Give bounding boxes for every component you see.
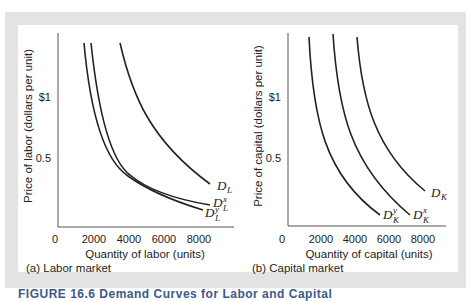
label-DKx: D x K [412,205,430,225]
x-tick-4000: 4000 [117,233,141,245]
x-tick-0: 0 [52,233,58,245]
svg-text:D: D [412,207,423,222]
y-tick-1: $1 [39,91,51,103]
svg-text:L: L [214,213,220,223]
y-axis-label: Price of capital (dollars per unit) [252,45,264,207]
x-tick-4000: 4000 [343,233,367,245]
x-tick-0: 0 [279,233,285,245]
curve-DKx [333,34,410,215]
label-DKy: D y K [382,205,400,225]
x-tick-8000: 8000 [411,233,435,245]
x-axis-label: Quantity of capital (units) [305,248,432,260]
labor-market-chart: $1 0.5 0 2000 4000 6000 8000 Quantity of… [22,33,234,274]
label-DL: D L [216,178,232,195]
x-tick-6000: 6000 [377,233,401,245]
figure-caption: FIGURE 16.6 Demand Curves for Labor and … [18,287,332,301]
capital-market-chart: $1 0.5 0 2000 4000 6000 8000 Quantity of… [252,33,448,274]
x-tick-2000: 2000 [82,233,106,245]
label-DK: D K [430,185,448,202]
label-DLy: D y L [204,204,220,223]
x-tick-6000: 6000 [152,233,176,245]
y-axis-label: Price of labor (dollars per unit) [22,49,34,203]
svg-text:K: K [422,215,430,225]
svg-text:L: L [222,203,228,213]
curve-DKy [309,37,380,215]
panel-label: (b) Capital market [252,262,344,274]
y-tick-0.5: 0.5 [36,152,51,164]
svg-text:x: x [422,205,427,215]
svg-text:K: K [392,215,400,225]
curve-DL [120,43,210,184]
x-tick-8000: 8000 [187,233,211,245]
svg-text:D: D [382,207,393,222]
curve-DLy [84,43,203,210]
y-tick-1: $1 [269,91,281,103]
svg-text:y: y [392,205,397,215]
svg-text:D: D [430,185,441,200]
y-tick-0.5: 0.5 [266,152,281,164]
curve-DLx [91,43,210,205]
x-axis-label: Quantity of labor (units) [85,248,205,260]
x-tick-2000: 2000 [309,233,333,245]
svg-text:D: D [216,178,227,193]
panel-label: (a) Labor market [26,262,112,274]
svg-text:K: K [440,192,448,202]
svg-text:D: D [204,205,215,220]
